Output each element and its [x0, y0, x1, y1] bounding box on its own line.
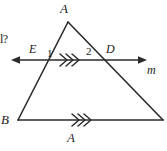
cropped-question-fragment: l? — [0, 33, 8, 45]
point-label-d: D — [106, 43, 115, 55]
arrowhead-left-icon — [11, 56, 20, 64]
triangle-side-AB — [18, 22, 68, 120]
angle-label-1: 1 — [47, 48, 53, 59]
angle-label-2: 2 — [86, 46, 92, 57]
line-label-m: m — [147, 64, 156, 76]
point-label-e: E — [29, 43, 36, 55]
arrowhead-right-icon — [138, 56, 147, 64]
vertex-label-b: B — [1, 113, 9, 126]
cropped-bottom-glyph: A — [67, 131, 75, 144]
geometry-figure — [0, 0, 167, 151]
vertex-label-a: A — [60, 2, 68, 15]
